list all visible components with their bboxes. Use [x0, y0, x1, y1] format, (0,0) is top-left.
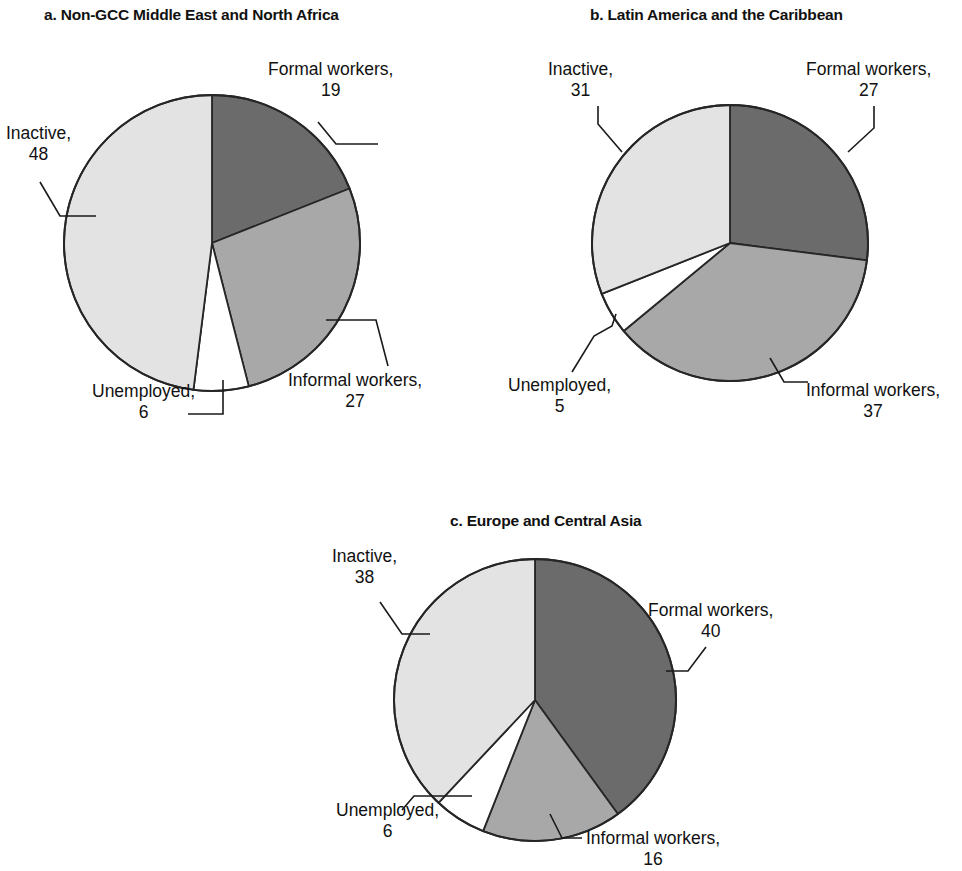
- label-b-unemployed-value: 5: [508, 396, 611, 417]
- label-c-inactive-name: Inactive,: [332, 546, 397, 566]
- panel-b-title: b. Latin America and the Caribbean: [590, 6, 843, 24]
- leader-c-informal: [548, 812, 618, 871]
- label-c-formal: Formal workers, 40: [648, 600, 773, 642]
- label-c-inactive-value: 38: [332, 567, 397, 588]
- leader-a-formal: [310, 104, 430, 184]
- label-a-unemployed: Unemployed, 6: [92, 381, 195, 423]
- leader-b-inactive: [596, 104, 676, 184]
- label-a-unemployed-name: Unemployed,: [92, 381, 195, 401]
- label-c-inactive: Inactive, 38: [332, 546, 397, 588]
- leader-b-informal: [768, 356, 858, 426]
- leader-a-unemployed: [186, 378, 306, 448]
- leader-a-informal: [326, 300, 456, 390]
- leader-c-formal: [664, 645, 764, 715]
- label-b-inactive-name: Inactive,: [548, 59, 613, 79]
- label-a-formal-value: 19: [268, 80, 393, 101]
- label-b-formal-value: 27: [806, 80, 931, 101]
- panel-c-title: c. Europe and Central Asia: [450, 512, 641, 530]
- label-a-inactive-name: Inactive,: [6, 123, 71, 143]
- label-b-formal-name: Formal workers,: [806, 59, 931, 79]
- leader-c-unemployed: [400, 786, 520, 846]
- label-a-formal-name: Formal workers,: [268, 59, 393, 79]
- label-a-inactive-value: 48: [6, 144, 71, 165]
- leader-c-inactive: [378, 596, 488, 676]
- label-a-informal-value: 27: [288, 391, 422, 412]
- label-b-inactive-value: 31: [548, 80, 613, 101]
- leader-b-formal: [826, 104, 916, 184]
- panel-a-title: a. Non-GCC Middle East and North Africa: [44, 6, 339, 24]
- label-b-formal: Formal workers, 27: [806, 59, 931, 101]
- leader-a-inactive: [38, 176, 148, 256]
- label-a-formal: Formal workers, 19: [268, 59, 393, 101]
- label-c-formal-value: 40: [648, 621, 773, 642]
- leader-b-unemployed: [566, 300, 676, 380]
- label-b-unemployed: Unemployed, 5: [508, 375, 611, 417]
- label-a-inactive: Inactive, 48: [6, 123, 71, 165]
- label-a-unemployed-value: 6: [92, 402, 195, 423]
- label-c-formal-name: Formal workers,: [648, 600, 773, 620]
- label-b-inactive: Inactive, 31: [548, 59, 613, 101]
